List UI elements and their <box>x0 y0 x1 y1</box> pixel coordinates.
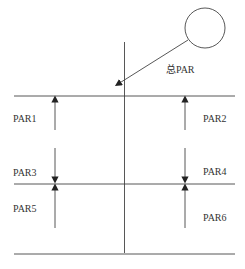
par3-label: PAR3 <box>13 168 37 178</box>
total-par-label: 总PAR <box>166 65 195 75</box>
par1-label: PAR1 <box>13 114 37 124</box>
par4-label: PAR4 <box>203 167 227 177</box>
sun-circle <box>185 8 225 48</box>
par5-label: PAR5 <box>13 204 37 214</box>
par-diagram <box>0 0 245 269</box>
par6-label: PAR6 <box>203 213 227 223</box>
total-par-arrow <box>118 40 188 84</box>
par2-label: PAR2 <box>203 114 227 124</box>
